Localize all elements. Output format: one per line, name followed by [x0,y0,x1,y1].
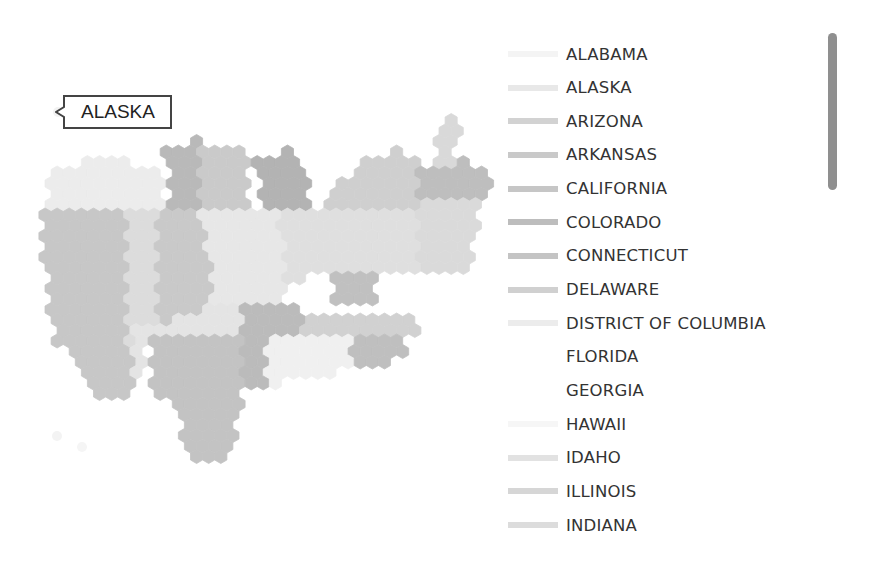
hex-cell[interactable] [354,292,366,306]
hex-cell[interactable] [445,261,457,275]
hex-cell[interactable] [354,355,366,369]
legend-scrollbar[interactable] [828,33,837,190]
legend-item[interactable]: IDAHO [508,441,828,475]
legend-item[interactable]: GEORGIA [508,374,828,408]
legend-item[interactable]: CONNECTICUT [508,239,828,273]
hawaii-hex[interactable] [77,442,87,452]
hex-cell[interactable] [397,261,409,275]
legend-swatch [508,51,558,57]
hex-cell[interactable] [366,355,378,369]
legend-swatch [508,455,558,461]
legend-label: ALASKA [566,78,632,97]
legend-label: INDIANA [566,516,637,535]
legend-swatch [508,287,558,293]
legend-swatch [508,522,558,528]
hex-cell[interactable] [433,261,445,275]
legend-swatch [508,421,558,427]
legend-item[interactable]: INDIANA [508,508,828,542]
hex-cell[interactable] [288,366,300,380]
hex-cell[interactable] [378,355,390,369]
hex-cell[interactable] [154,387,166,401]
legend-label: HAWAII [566,415,626,434]
hex-cell[interactable] [342,355,354,369]
legend-swatch [508,118,558,124]
hex-cell[interactable] [397,345,409,359]
legend-swatch [508,488,558,494]
legend-label: ARIZONA [566,112,643,131]
hex-cell[interactable] [385,261,397,275]
legend-item[interactable]: HAWAII [508,407,828,441]
hex-cell[interactable] [106,387,118,401]
hex-cell[interactable] [269,376,281,390]
hex-cell[interactable] [409,261,421,275]
legend-item[interactable]: CALIFORNIA [508,172,828,206]
hex-cell[interactable] [312,366,324,380]
legend-label: FLORIDA [566,347,639,366]
tooltip-state-name: ALASKA [67,95,169,128]
legend-label: DELAWARE [566,280,659,299]
legend-swatch [508,354,558,360]
legend-label: CALIFORNIA [566,179,667,198]
legend-item[interactable]: DISTRICT OF COLUMBIA [508,306,828,340]
hex-cell[interactable] [51,334,63,348]
legend-label: COLORADO [566,213,661,232]
legend-label: ILLINOIS [566,482,636,501]
hex-cell[interactable] [421,261,433,275]
legend-item[interactable]: COLORADO [508,205,828,239]
hex-cell[interactable] [312,261,324,275]
hex-cell[interactable] [294,271,306,285]
hex-cell[interactable] [257,376,269,390]
legend-label: GEORGIA [566,381,644,400]
hex-cell[interactable] [330,292,342,306]
legend-swatch [508,253,558,259]
legend-item[interactable]: ARIZONA [508,104,828,138]
hex-cell[interactable] [409,324,421,338]
hex-cell[interactable] [215,450,227,464]
legend-item[interactable]: ARKANSAS [508,138,828,172]
legend-item[interactable]: FLORIDA [508,340,828,374]
legend-item[interactable]: ALASKA [508,71,828,105]
legend-label: IDAHO [566,448,621,467]
legend-label: ARKANSAS [566,145,657,164]
hex-cell[interactable] [118,387,130,401]
hex-cell[interactable] [342,292,354,306]
hex-cell[interactable] [245,376,257,390]
legend-label: CONNECTICUT [566,246,688,265]
legend-item[interactable]: ALABAMA [508,37,828,71]
hex-cell[interactable] [300,366,312,380]
legend-item[interactable]: ILLINOIS [508,474,828,508]
hex-cell[interactable] [366,292,378,306]
legend-swatch [508,85,558,91]
legend-item[interactable]: DELAWARE [508,273,828,307]
legend-label: ALABAMA [566,45,648,64]
hex-cell[interactable] [191,450,203,464]
legend-swatch [508,152,558,158]
legend-swatch [508,219,558,225]
legend-label: DISTRICT OF COLUMBIA [566,314,766,333]
legend-swatch [508,186,558,192]
hex-cell[interactable] [203,450,215,464]
hex-cell[interactable] [94,387,106,401]
hex-cell[interactable] [457,261,469,275]
hawaii-hex[interactable] [52,431,62,441]
legend-swatch [508,388,558,394]
legend-swatch [508,320,558,326]
hex-cell[interactable] [324,366,336,380]
